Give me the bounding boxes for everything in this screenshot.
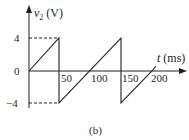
figure-caption: (b) [89,124,102,137]
y-tick-0: 0 [14,65,20,77]
x-tick-200: 200 [151,72,168,84]
x-tick-50: 50 [61,72,73,84]
y-axis-label: v2 (V) [34,6,63,22]
x-axis-label: t (ms) [157,51,185,65]
chart: v2 (V) t (ms) 4 0 −4 50 100 150 200 (b) [0,0,189,140]
y-axis-arrow-icon [26,5,32,13]
y-tick-minus4: −4 [6,97,18,109]
y-tick-4: 4 [14,32,20,44]
x-axis-arrow-icon [179,68,187,74]
x-tick-100: 100 [91,72,108,84]
x-tick-150: 150 [122,72,139,84]
